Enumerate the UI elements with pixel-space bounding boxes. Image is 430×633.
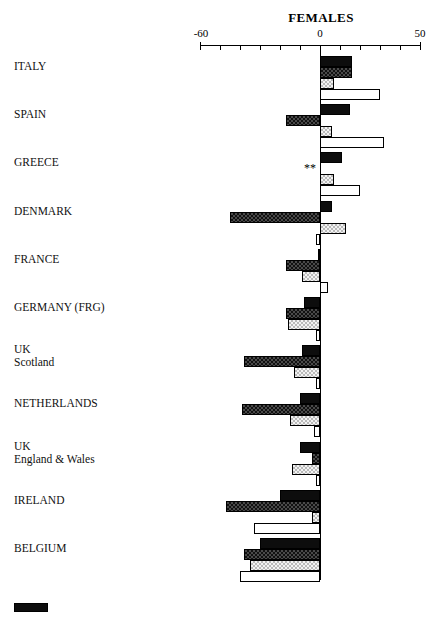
bar-series-2 <box>320 67 352 78</box>
bar-series-1 <box>304 297 320 308</box>
bar-series-1 <box>320 152 342 163</box>
bar-series-3 <box>294 367 320 378</box>
bar-series-4 <box>316 330 320 341</box>
bar-series-4 <box>320 89 380 100</box>
category-label: SPAIN <box>14 108 46 121</box>
bar-series-1 <box>320 56 352 67</box>
bar-series-4 <box>316 475 320 486</box>
bar-series-2 <box>226 501 320 512</box>
category-label: IRELAND <box>14 494 64 507</box>
bar-series-3 <box>320 223 346 234</box>
chart-root: FEMALES -60 0 50 ITALYSPAINGREECEDENMARK… <box>0 0 430 633</box>
axis-end-tick <box>200 42 201 50</box>
bar-series-3 <box>290 415 320 426</box>
bar-series-3 <box>320 126 332 137</box>
category-label: GERMANY (FRG) <box>14 301 105 314</box>
category-label: NETHERLANDS <box>14 397 98 410</box>
bar-series-3 <box>302 271 320 282</box>
axis-tick-label-max: 50 <box>400 27 430 39</box>
axis-tick <box>240 45 241 50</box>
axis-tick <box>380 45 381 50</box>
bar-series-3 <box>320 174 334 185</box>
axis-tick <box>360 45 361 50</box>
bar-series-3 <box>312 512 320 523</box>
axis-tick <box>300 45 301 50</box>
axis-tick <box>220 45 221 50</box>
category-label: GREECE <box>14 156 59 169</box>
bar-series-2 <box>230 212 320 223</box>
bar-series-4 <box>316 234 320 245</box>
category-label: UK Scotland <box>14 343 54 369</box>
bar-series-2 <box>312 453 320 464</box>
bar-series-3 <box>250 560 320 571</box>
category-label: FRANCE <box>14 253 59 266</box>
bar-series-4 <box>316 378 320 389</box>
axis-tick-label-min: -60 <box>181 27 221 39</box>
bar-series-2 <box>244 549 320 560</box>
category-label: ITALY <box>14 60 46 73</box>
axis-tick <box>340 45 341 50</box>
bar-series-4 <box>320 282 328 293</box>
axis-tick <box>400 45 401 50</box>
bar-series-2 <box>242 404 320 415</box>
bar-series-3 <box>288 319 320 330</box>
bar-series-2 <box>244 356 320 367</box>
category-label: DENMARK <box>14 205 72 218</box>
bar-series-1 <box>302 345 320 356</box>
bar-series-4 <box>240 571 320 582</box>
bar-series-1 <box>300 393 320 404</box>
category-label: UK England & Wales <box>14 440 95 466</box>
bar-series-1 <box>260 538 320 549</box>
axis-tick <box>260 45 261 50</box>
category-label: BELGIUM <box>14 542 66 555</box>
bar-series-4 <box>320 137 384 148</box>
bar-series-4 <box>314 426 320 437</box>
bar-series-3 <box>292 464 320 475</box>
bar-series-1 <box>300 442 320 453</box>
axis-end-tick <box>420 42 421 50</box>
bar-series-1 <box>320 104 350 115</box>
bar-series-1 <box>320 201 332 212</box>
legend-swatch-series-1 <box>14 603 48 612</box>
axis-tick-label-zero: 0 <box>300 27 340 39</box>
bar-series-2 <box>286 260 320 271</box>
bar-series-2 <box>286 115 320 126</box>
axis-tick <box>280 45 281 50</box>
bar-series-1 <box>280 490 320 501</box>
missing-value-marker: ** <box>304 164 316 173</box>
axis-baseline <box>200 45 420 46</box>
bar-series-4 <box>254 523 320 534</box>
bar-series-4 <box>320 185 360 196</box>
bar-series-3 <box>320 78 334 89</box>
bar-series-2 <box>286 308 320 319</box>
bar-series-1 <box>318 249 320 260</box>
